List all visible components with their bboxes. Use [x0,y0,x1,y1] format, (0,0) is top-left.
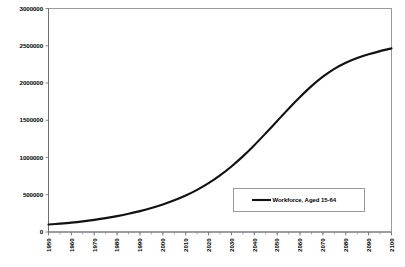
x-tick-label: 2040 [251,238,258,252]
workforce-line-chart: 0500000100000015000002000000250000030000… [0,0,405,267]
x-tick-label: 2070 [319,238,326,252]
x-tick-label: 2080 [342,238,349,252]
y-tick-label: 2000000 [20,79,44,86]
x-tick-label: 1980 [113,238,120,252]
x-tick-label: 2000 [159,238,166,252]
y-tick-label: 2500000 [20,42,44,49]
y-tick-label: 3000000 [20,5,44,12]
x-tick-label: 1950 [45,238,52,252]
x-tick-label: 1990 [136,238,143,252]
y-tick-label: 500000 [23,191,44,198]
x-tick-label: 2090 [365,238,372,252]
x-tick-label: 2100 [388,238,395,252]
x-tick-label: 1960 [68,238,75,252]
x-tick-label: 2050 [273,238,280,252]
y-tick-label: 1500000 [20,116,44,123]
x-tick-label: 2030 [228,238,235,252]
chart-background [0,0,405,267]
x-tick-label: 2060 [296,238,303,252]
x-tick-label: 2020 [205,238,212,252]
chart-legend: Workforce, Aged 15-64 [234,189,365,212]
y-tick-label: 1000000 [20,154,44,161]
legend-label-workforce: Workforce, Aged 15-64 [273,197,337,203]
x-tick-label: 2010 [182,238,189,252]
chart-container: 0500000100000015000002000000250000030000… [0,0,405,267]
x-tick-label: 1970 [91,238,98,252]
